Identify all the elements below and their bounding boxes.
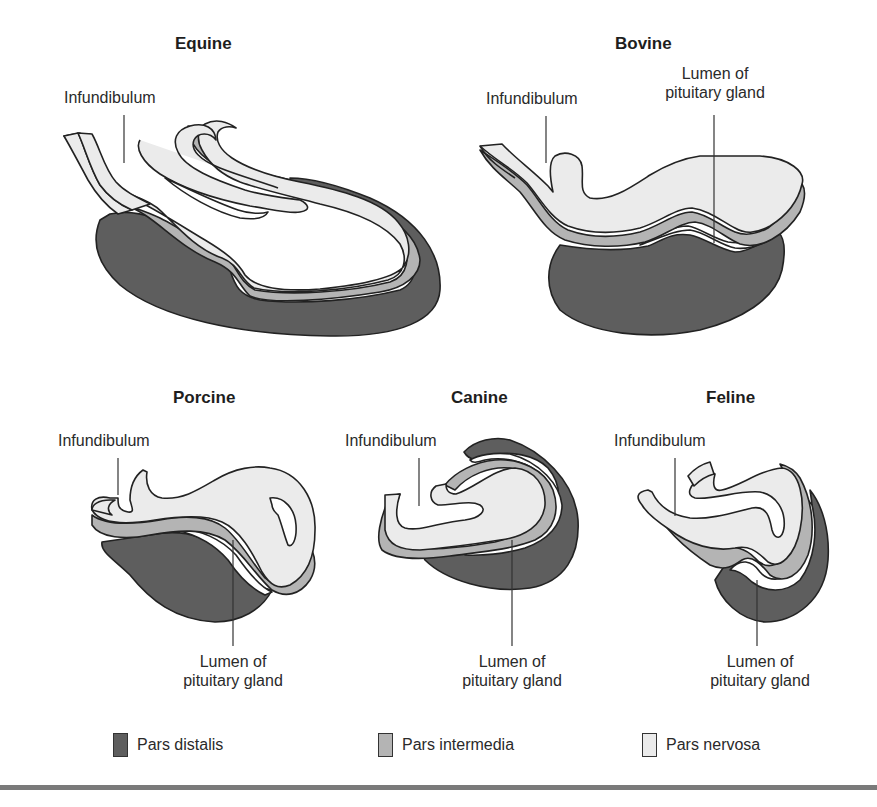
equine-infundibulum-label: Infundibulum bbox=[64, 88, 156, 107]
legend-item-pars-distalis: Pars distalis bbox=[113, 733, 223, 757]
porcine-lumen-label-line1: Lumen of bbox=[163, 652, 303, 671]
porcine-lumen-label-line2: pituitary gland bbox=[163, 671, 303, 690]
feline-infundibulum-label: Infundibulum bbox=[614, 431, 706, 450]
porcine-infundibulum-label: Infundibulum bbox=[58, 431, 150, 450]
legend-label: Pars intermedia bbox=[402, 736, 514, 754]
feline-pars-nervosa bbox=[638, 468, 802, 564]
bovine-lumen-label-line1: Lumen of bbox=[645, 64, 785, 83]
feline-title: Feline bbox=[706, 388, 755, 408]
bovine-title: Bovine bbox=[615, 34, 672, 54]
feline-lumen-label: Lumen of pituitary gland bbox=[690, 652, 830, 690]
canine-pituitary bbox=[379, 439, 578, 590]
bovine-pituitary bbox=[480, 144, 804, 335]
feline-pituitary bbox=[638, 462, 828, 622]
legend-label: Pars distalis bbox=[137, 736, 223, 754]
section-divider bbox=[0, 785, 877, 790]
legend-label: Pars nervosa bbox=[666, 736, 760, 754]
canine-lumen-label-line1: Lumen of bbox=[442, 652, 582, 671]
canine-title: Canine bbox=[451, 388, 508, 408]
feline-lumen-label-line1: Lumen of bbox=[690, 652, 830, 671]
canine-lumen-label-line2: pituitary gland bbox=[442, 671, 582, 690]
legend-item-pars-intermedia: Pars intermedia bbox=[378, 733, 514, 757]
canine-lumen-label: Lumen of pituitary gland bbox=[442, 652, 582, 690]
canine-infundibulum-label: Infundibulum bbox=[345, 431, 437, 450]
porcine-title: Porcine bbox=[173, 388, 235, 408]
equine-title: Equine bbox=[175, 34, 232, 54]
equine-pituitary bbox=[64, 121, 440, 336]
bovine-lumen-label: Lumen of pituitary gland bbox=[645, 64, 785, 102]
pars-intermedia-swatch bbox=[378, 733, 393, 757]
bovine-infundibulum-label: Infundibulum bbox=[486, 89, 578, 108]
feline-lumen-label-line2: pituitary gland bbox=[690, 671, 830, 690]
bovine-lumen-label-line2: pituitary gland bbox=[645, 83, 785, 102]
porcine-lumen-label: Lumen of pituitary gland bbox=[163, 652, 303, 690]
porcine-pituitary bbox=[92, 467, 315, 622]
pars-nervosa-swatch bbox=[642, 733, 657, 757]
legend-item-pars-nervosa: Pars nervosa bbox=[642, 733, 760, 757]
pars-distalis-swatch bbox=[113, 733, 128, 757]
